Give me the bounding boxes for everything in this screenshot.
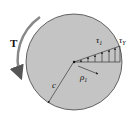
torque-label: T xyxy=(10,37,18,49)
center-point xyxy=(73,61,75,63)
radius-label: c xyxy=(52,80,56,90)
tauY-label: τY xyxy=(119,35,126,46)
shaft-diagram: T τ1 τY ρ1 c xyxy=(0,0,138,115)
